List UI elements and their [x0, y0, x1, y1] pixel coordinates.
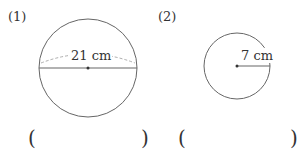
- answer-1-close: ): [141, 126, 149, 150]
- radius-label: 7 cm: [240, 48, 274, 63]
- circle-1-figure: [39, 19, 137, 117]
- answer-1-open: (: [28, 126, 36, 150]
- answer-2-close: ): [290, 126, 298, 150]
- diameter-label: 21 cm: [70, 48, 112, 63]
- circle-2-figure: [204, 33, 270, 99]
- figures: [0, 0, 298, 157]
- answer-2-open: (: [178, 126, 186, 150]
